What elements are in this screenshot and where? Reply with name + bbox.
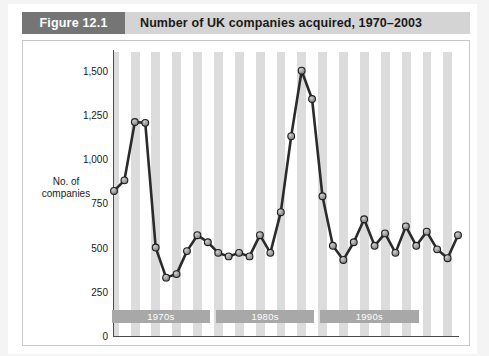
year-band [114,52,119,336]
decade-bar-1980s: 1980s [216,310,314,323]
y-axis-line [113,50,114,337]
year-band [235,52,244,336]
year-band [339,52,348,336]
page-background: Figure 12.1 Number of UK companies acqui… [0,0,489,356]
year-band [277,52,286,336]
plot-area [114,52,458,336]
year-band [423,52,432,336]
x-axis-line [113,336,459,337]
y-tick-label: 1,000 [83,154,108,165]
year-band [381,52,390,336]
year-band [172,52,181,336]
year-band [360,52,369,336]
year-band [214,52,223,336]
year-band [443,52,452,336]
y-axis-title-line2: companies [28,188,104,200]
y-tick-label: 1,250 [83,109,108,120]
y-tick-label: 250 [91,286,108,297]
y-tick-label: 0 [102,331,108,342]
year-band [402,52,411,336]
alternating-year-bands [114,52,458,336]
year-band [131,52,140,336]
y-axis-title: No. of companies [28,176,104,200]
y-tick-label: 500 [91,242,108,253]
year-band [318,52,327,336]
decade-bar-1970s: 1970s [112,310,210,323]
y-tick-label: 1,500 [83,65,108,76]
year-band [297,52,306,336]
decade-bar-1990s: 1990s [320,310,418,323]
figure-title: Number of UK companies acquired, 1970–20… [140,12,422,34]
year-band [256,52,265,336]
year-band [193,52,202,336]
y-axis-title-line1: No. of [28,176,104,188]
year-band [151,52,160,336]
